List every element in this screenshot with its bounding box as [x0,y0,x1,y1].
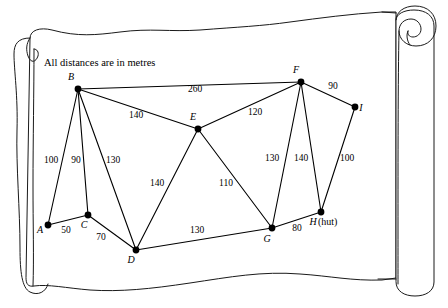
graph-node-i [352,104,359,111]
edge-weight-b-f: 260 [188,84,203,94]
scroll-map-figure: 1005090130140260701401301201101301409080… [0,0,448,308]
node-label-i: I [358,102,363,113]
node-suffix-h: (hut) [318,216,337,228]
graph-node-d [133,247,140,254]
node-label-g: G [263,233,270,244]
node-label-d: D [126,254,135,265]
figure-canvas: 1005090130140260701401301201101301409080… [0,0,448,308]
edge-weight-f-h: 140 [294,153,309,163]
edge-weight-h-i: 100 [340,153,355,163]
graph-node-g [269,225,276,232]
edge-weight-b-e: 140 [129,110,144,120]
graph-node-e [195,126,202,133]
edge-weight-a-b: 100 [44,155,59,165]
edge-weight-e-f: 120 [248,107,263,117]
edge-weight-d-g: 130 [190,225,205,235]
node-label-h: H [308,216,317,227]
node-label-c: C [81,219,88,230]
node-label-b: B [68,71,74,82]
node-label-a: A [36,224,44,235]
graph-node-f [298,79,305,86]
scroll-right-roll [396,10,434,296]
figure-caption: All distances are in metres [44,57,155,68]
edge-weight-g-h: 80 [292,223,302,233]
edge-weight-e-g: 110 [219,178,233,188]
graph-node-b [75,86,82,93]
edge-weight-f-i: 90 [328,81,338,91]
graph-node-a [45,222,52,229]
node-label-e: E [189,111,196,122]
edge-weight-b-d: 130 [106,155,121,165]
graph-node-c [85,212,92,219]
edge-weight-b-c: 90 [71,155,81,165]
edge-weight-d-e: 140 [150,178,165,188]
scroll-parchment [14,6,436,296]
edge-weight-f-g: 130 [265,153,280,163]
node-label-f: F [292,64,300,75]
edge-weight-c-d: 70 [96,232,106,242]
edge-weight-a-c: 50 [61,225,71,235]
graph-node-h [318,209,325,216]
